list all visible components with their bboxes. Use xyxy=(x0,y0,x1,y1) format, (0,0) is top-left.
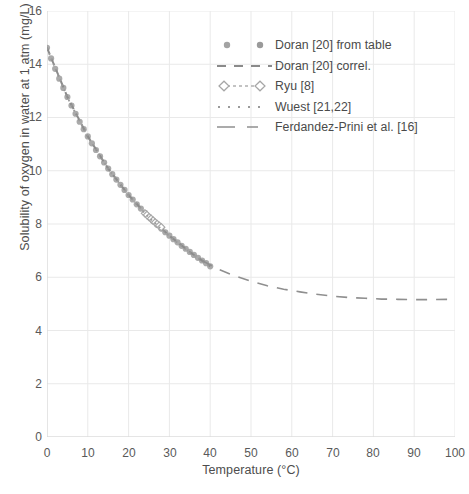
x-tick-label: 40 xyxy=(190,447,230,459)
chart-legend: Doran [20] from table Doran [20] correl.… xyxy=(213,31,460,143)
y-tick-label: 2 xyxy=(16,378,42,390)
x-tick-label: 20 xyxy=(109,447,149,459)
legend-label: Doran [20] correl. xyxy=(275,59,371,73)
legend-marker-dotted-line-icon xyxy=(215,97,275,117)
y-tick-label: 12 xyxy=(16,111,42,123)
legend-label: Wuest [21,22] xyxy=(275,100,351,114)
x-tick-label: 90 xyxy=(394,447,434,459)
x-tick-label: 0 xyxy=(27,447,67,459)
series-ferdandez-prini-et-al-16 xyxy=(202,260,455,299)
legend-item-doran-table: Doran [20] from table xyxy=(215,35,458,56)
legend-label: Ferdandez-Prini et al. [16] xyxy=(275,120,418,134)
legend-item-wuest: Wuest [21,22] xyxy=(215,97,458,118)
x-tick-label: 60 xyxy=(272,447,312,459)
legend-label: Doran [20] from table xyxy=(275,38,392,52)
legend-item-ryu: Ryu [8] xyxy=(215,76,458,97)
y-tick-label: 0 xyxy=(16,431,42,443)
y-axis-tick-labels: 16 14 12 10 8 6 4 2 0 xyxy=(12,0,42,494)
legend-item-doran-correl: Doran [20] correl. xyxy=(215,56,458,77)
x-axis-title: Temperature (°C) xyxy=(47,463,455,477)
legend-marker-long-dash-line-icon xyxy=(215,117,275,137)
y-tick-label: 4 xyxy=(16,325,42,337)
legend-marker-filled-circle-icon xyxy=(215,35,275,55)
x-tick-label: 80 xyxy=(353,447,393,459)
x-axis-tick-labels: 0 10 20 30 40 50 60 70 80 90 100 xyxy=(0,447,469,463)
legend-marker-dashed-line-icon xyxy=(215,56,275,76)
x-tick-label: 30 xyxy=(150,447,190,459)
y-tick-label: 14 xyxy=(16,58,42,70)
y-tick-label: 6 xyxy=(16,271,42,283)
y-tick-label: 10 xyxy=(16,165,42,177)
x-tick-label: 10 xyxy=(68,447,108,459)
legend-marker-open-diamond-icon xyxy=(215,76,275,96)
series-doran-20-from-table xyxy=(47,45,213,270)
legend-item-ferdandez-prini: Ferdandez-Prini et al. [16] xyxy=(215,117,458,138)
solubility-chart: Solubility of oxygen in water at 1 atm (… xyxy=(0,0,469,494)
x-tick-label: 100 xyxy=(435,447,469,459)
y-tick-label: 8 xyxy=(16,218,42,230)
x-tick-label: 70 xyxy=(313,447,353,459)
x-tick-label: 50 xyxy=(231,447,271,459)
legend-label: Ryu [8] xyxy=(275,79,314,93)
y-tick-label: 16 xyxy=(16,5,42,17)
series-ryu-8 xyxy=(141,210,165,231)
